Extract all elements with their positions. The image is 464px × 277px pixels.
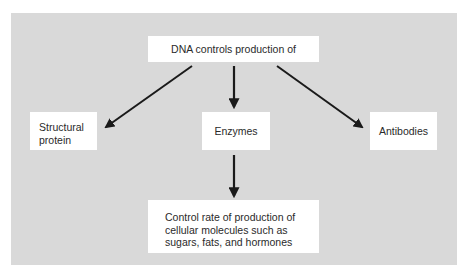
node-control-rate: Control rate of production of cellular m… (148, 200, 319, 253)
node-enzymes-label: Enzymes (214, 125, 257, 138)
node-enzymes: Enzymes (202, 112, 270, 150)
node-structural-protein-line-2: protein (39, 134, 97, 147)
node-antibodies: Antibodies (370, 112, 437, 150)
node-control-rate-line-2: cellular molecules such as (165, 224, 319, 237)
node-control-rate-line-1: Control rate of production of (165, 211, 319, 224)
node-structural-protein: Structural protein (30, 112, 97, 150)
node-control-rate-line-3: sugars, fats, and hormones (165, 236, 319, 249)
node-antibodies-label: Antibodies (379, 125, 428, 138)
node-dna-controls-label: DNA controls production of (171, 43, 296, 56)
node-dna-controls: DNA controls production of (148, 36, 319, 62)
node-structural-protein-line-1: Structural (39, 121, 97, 134)
